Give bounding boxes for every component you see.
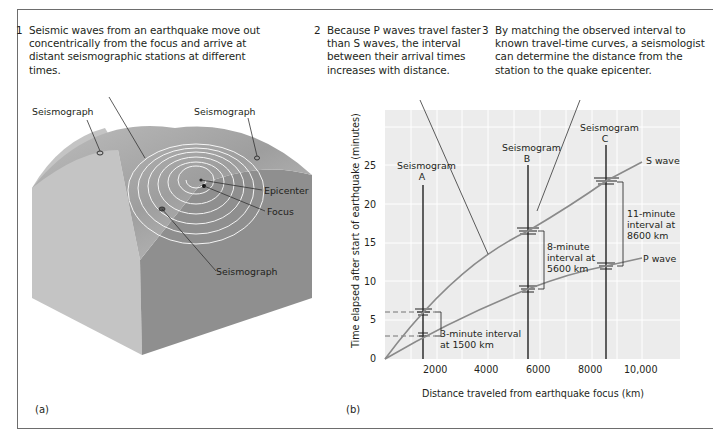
seismogram-c-label: Seismogram C [580,122,630,144]
y-tick: 5 [370,314,376,325]
seismogram-b-label: Seismogram B [502,142,552,164]
seismograph-label-bottom: Seismograph [216,266,278,277]
x-tick: 2000 [423,364,447,375]
y-tick: 10 [364,276,376,287]
y-tick: 15 [364,237,376,248]
panel-b-label: (b) [346,404,360,415]
y-tick: 0 [370,353,376,364]
x-tick: 10,000 [624,364,658,375]
s-wave-label: S wave [646,155,680,166]
x-tick: 6000 [526,364,550,375]
interval-note-a: 3-minute interval at 1500 km [440,328,521,350]
panel-a-label: (a) [35,404,49,415]
focus-label: Focus [267,206,294,217]
y-tick: 20 [364,199,376,210]
x-tick: 8000 [578,364,602,375]
seismogram-a-label: Seismogram A [397,160,447,182]
x-axis-label: Distance traveled from earthquake focus … [422,388,644,399]
interval-note-b: 8-minute interval at 5600 km [547,241,595,274]
seismograph-label-right: Seismograph [194,106,256,117]
x-tick: 4000 [474,364,498,375]
y-axis-label: Time elapsed after start of earthquake (… [350,113,361,348]
epicenter-label: Epicenter [264,185,309,196]
interval-note-c: 11-minute interval at 8600 km [627,208,675,241]
p-wave-label: P wave [643,253,676,264]
seismograph-label-left: Seismograph [32,106,94,117]
y-tick: 25 [364,160,376,171]
